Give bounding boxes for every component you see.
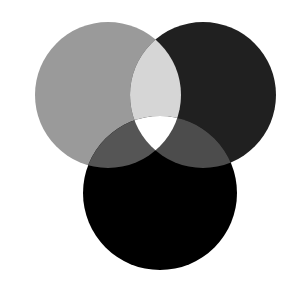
venn-diagram	[0, 0, 302, 287]
venn-svg	[0, 0, 302, 287]
